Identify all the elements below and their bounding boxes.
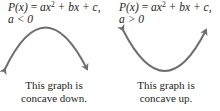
coefficient-condition: a > 0 xyxy=(119,13,144,25)
concave-down-panel: P(x) = ax2 + bx + c, a < 0 This graph is… xyxy=(0,0,110,111)
concave-up-panel: P(x) = ax2 + bx + c, a > 0 This graph is… xyxy=(110,0,220,111)
graph-caption: This graph is concave up. xyxy=(111,79,220,105)
quadratic-formula: P(x) = ax2 + bx + c, xyxy=(119,1,212,13)
coefficient-condition: a < 0 xyxy=(8,13,33,25)
quadratic-formula: P(x) = ax2 + bx + c, xyxy=(8,1,101,13)
graph-caption: This graph is concave down. xyxy=(0,79,109,105)
